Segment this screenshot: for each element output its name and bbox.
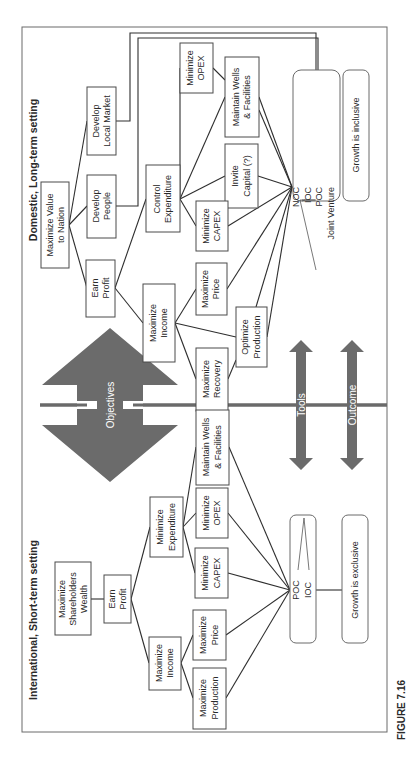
domestic-box-maximize-value: Maximize Value to Nation — [41, 182, 69, 268]
svg-text:Develop: Develop — [91, 189, 101, 222]
svg-text:Profit: Profit — [118, 588, 128, 610]
intl-box-minimize-opex: Minimize OPEX — [196, 488, 228, 538]
intl-box-maximize-production: Maximize Production — [193, 668, 226, 729]
intl-box-minimize-expenditure: Minimize Expenditure — [150, 497, 183, 557]
domestic-tools-box: NOC IOC POC Joint Venture — [291, 70, 340, 270]
svg-text:Production: Production — [210, 676, 220, 719]
intl-tools-box: POC IOC — [290, 515, 316, 643]
domestic-box-maximize-recovery: Maximize Recovery — [196, 348, 228, 411]
domestic-box-maintain-wells: Maintain Wells & Facilities — [225, 57, 259, 137]
svg-text:Price: Price — [210, 625, 220, 646]
svg-text:Profit: Profit — [101, 277, 111, 299]
svg-text:Shareholders: Shareholders — [68, 572, 78, 626]
svg-text:& Facilities: & Facilities — [213, 425, 223, 469]
international-title: International, Short-term setting — [27, 540, 39, 700]
svg-text:People: People — [102, 192, 112, 220]
tool-noc: NOC — [291, 187, 301, 208]
svg-text:to Nation: to Nation — [56, 207, 66, 243]
svg-text:Optimize: Optimize — [240, 319, 250, 355]
svg-text:Maintain Wells: Maintain Wells — [231, 67, 241, 126]
svg-text:Invite: Invite — [230, 165, 240, 187]
svg-text:CAPEX: CAPEX — [212, 558, 222, 589]
svg-text:Growth is exclusive: Growth is exclusive — [350, 541, 360, 619]
svg-text:Expenditure: Expenditure — [163, 175, 173, 223]
svg-text:Minimize: Minimize — [201, 208, 211, 244]
svg-text:Income: Income — [165, 648, 175, 678]
svg-text:Income: Income — [159, 308, 169, 338]
domestic-title: Domestic, Long-term setting — [27, 99, 39, 241]
intl-box-minimize-capex: Minimize CAPEX — [195, 548, 228, 598]
domestic-box-minimize-capex: Minimize CAPEX — [196, 201, 228, 251]
tools-label: Tools — [296, 393, 307, 416]
intl-box-maximize-price: Maximize Price — [193, 610, 226, 660]
svg-text:Maintain Wells: Maintain Wells — [201, 417, 211, 476]
svg-text:Earn: Earn — [107, 589, 117, 608]
svg-text:Maximize: Maximize — [154, 644, 164, 682]
tool-joint-venture: Joint Venture — [326, 187, 336, 240]
svg-text:Recovery: Recovery — [212, 359, 222, 398]
objectives-label: Objectives — [105, 382, 116, 429]
svg-text:Maximize: Maximize — [148, 304, 158, 342]
intl-box-maintain-wells: Maintain Wells & Facilities — [196, 410, 229, 485]
svg-text:OPEX: OPEX — [212, 500, 222, 525]
svg-text:Expenditure: Expenditure — [167, 503, 177, 551]
svg-text:Growth is inclusive: Growth is inclusive — [351, 97, 361, 172]
intl-box-maximize-income: Maximize Income — [149, 637, 181, 690]
domestic-box-maximize-income: Maximize Income — [143, 284, 175, 362]
diagram-canvas: Objectives Tools Outcome Domestic, Long-… — [0, 0, 411, 757]
domestic-box-minimize-opex: Minimize OPEX — [180, 43, 213, 93]
svg-text:Minimize: Minimize — [201, 495, 211, 531]
domestic-box-control-expenditure: Control Expenditure — [146, 165, 180, 232]
intl-box-earn-profit: Earn Profit — [104, 575, 131, 623]
svg-text:Wealth: Wealth — [79, 585, 89, 613]
tool-poc: POC — [314, 187, 324, 207]
svg-text:Minimize: Minimize — [200, 555, 210, 591]
tool-ioc: IOC — [303, 582, 313, 599]
domestic-box-maximize-price: Maximize Price — [196, 263, 227, 315]
svg-text:Earn: Earn — [90, 278, 100, 297]
figure-caption: FIGURE 7.16 — [396, 680, 407, 740]
domestic-box-earn-profit: Earn Profit — [86, 260, 115, 317]
domestic-box-develop-local-market: Develop Local Market — [87, 87, 116, 155]
domestic-box-develop-people: Develop People — [87, 175, 116, 238]
tool-ioc: IOC — [303, 187, 313, 204]
svg-text:Production: Production — [252, 315, 262, 358]
figure-container: Objectives Tools Outcome Domestic, Long-… — [0, 0, 411, 757]
svg-text:OPEX: OPEX — [196, 55, 206, 80]
svg-text:Price: Price — [211, 279, 221, 300]
outcome-label: Outcome — [347, 384, 358, 425]
svg-text:Maximize Value: Maximize Value — [45, 194, 55, 257]
svg-text:Control: Control — [152, 184, 162, 213]
svg-text:Develop: Develop — [91, 104, 101, 137]
svg-text:Minimize: Minimize — [155, 509, 165, 545]
tool-poc: POC — [291, 580, 301, 600]
svg-text:Maximize: Maximize — [198, 679, 208, 717]
svg-text:& Facilities: & Facilities — [242, 75, 252, 119]
intl-box-maximize-shareholders-wealth: Maximize Shareholders Wealth — [55, 562, 91, 635]
svg-text:Minimize: Minimize — [185, 50, 195, 86]
svg-text:Maximize: Maximize — [57, 580, 67, 618]
domestic-box-optimize-production: Optimize Production — [236, 307, 267, 367]
svg-text:Maximize: Maximize — [200, 270, 210, 308]
intl-outcome-box: Growth is exclusive — [342, 515, 368, 643]
domestic-outcome-box: Growth is inclusive — [343, 70, 369, 201]
svg-text:Local Market: Local Market — [102, 95, 112, 147]
svg-text:Maximize: Maximize — [201, 360, 211, 398]
svg-text:Capital (?): Capital (?) — [242, 155, 252, 197]
domestic-box-invite-capital: Invite Capital (?) — [225, 144, 258, 208]
svg-text:CAPEX: CAPEX — [212, 211, 222, 242]
svg-text:Maximize: Maximize — [198, 616, 208, 654]
